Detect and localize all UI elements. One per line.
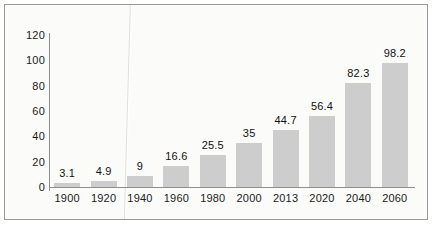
y-axis-tick-label: 20 (11, 156, 45, 167)
bar-chart-figure: 020406080100120 3.14.9916.625.53544.756.… (0, 0, 433, 225)
bar-group[interactable]: 56.4 (309, 35, 335, 187)
y-axis-tick-labels: 020406080100120 (5, 35, 45, 187)
bar-group[interactable]: 82.3 (345, 35, 371, 187)
y-axis-tick-label: 100 (11, 55, 45, 66)
bar-group[interactable]: 16.6 (163, 35, 189, 187)
y-axis-tick-label: 40 (11, 131, 45, 142)
bar[interactable] (163, 166, 189, 187)
bar-value-label: 16.6 (154, 151, 198, 162)
x-axis-tick-label: 2060 (373, 193, 417, 204)
bar-group[interactable]: 25.5 (200, 35, 226, 187)
x-axis-tick-labels: 1900192019401960198020002013202020402060 (49, 193, 413, 211)
bar-group[interactable]: 3.1 (54, 35, 80, 187)
bar[interactable] (200, 155, 226, 187)
bar-group[interactable]: 35 (236, 35, 262, 187)
y-axis-tick-label: 80 (11, 80, 45, 91)
bar[interactable] (54, 183, 80, 187)
bar-group[interactable]: 4.9 (91, 35, 117, 187)
bar-group[interactable]: 98.2 (382, 35, 408, 187)
y-axis-tick-label: 0 (11, 182, 45, 193)
bar-value-label: 25.5 (191, 140, 235, 151)
bar-value-label: 44.7 (264, 115, 308, 126)
bar-value-label: 35 (227, 128, 271, 139)
bar[interactable] (236, 143, 262, 187)
chart-paper-frame: 020406080100120 3.14.9916.625.53544.756.… (4, 4, 428, 220)
bar[interactable] (127, 176, 153, 187)
bar[interactable] (309, 116, 335, 187)
y-axis-tick-label: 120 (11, 30, 45, 41)
bar[interactable] (91, 181, 117, 187)
bar-value-label: 82.3 (336, 68, 380, 79)
bar-value-label: 9 (118, 161, 162, 172)
bar-group[interactable]: 44.7 (273, 35, 299, 187)
bar-group[interactable]: 9 (127, 35, 153, 187)
bar[interactable] (273, 130, 299, 187)
bar[interactable] (382, 63, 408, 187)
y-axis-tick-label: 60 (11, 106, 45, 117)
x-axis-line (49, 187, 415, 188)
bar-value-label: 98.2 (373, 48, 417, 59)
plot-area: 3.14.9916.625.53544.756.482.398.2 (49, 35, 413, 187)
bar-value-label: 56.4 (300, 101, 344, 112)
bar[interactable] (345, 83, 371, 187)
